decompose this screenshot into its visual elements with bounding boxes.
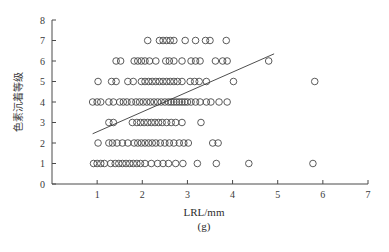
x-tick-label: 2 xyxy=(140,189,145,200)
y-tick-label: 1 xyxy=(40,158,45,169)
data-point-marker xyxy=(224,58,231,65)
data-point-marker xyxy=(198,119,205,126)
data-point-marker xyxy=(246,160,253,167)
data-point-marker xyxy=(185,140,192,147)
data-point-marker xyxy=(110,99,117,106)
x-axis-title: LRL/mm xyxy=(184,206,225,218)
data-point-marker xyxy=(172,119,179,126)
x-tick-label: 4 xyxy=(230,189,235,200)
y-tick-label: 0 xyxy=(40,179,45,190)
data-point-marker xyxy=(144,37,151,44)
y-tick-label: 7 xyxy=(40,35,45,46)
data-point-marker xyxy=(179,119,186,126)
data-point-marker xyxy=(182,37,189,44)
y-tick-label: 4 xyxy=(40,97,45,108)
figure-subcaption: (g) xyxy=(198,220,211,233)
data-point-marker xyxy=(179,78,186,85)
data-point-marker xyxy=(224,99,231,106)
y-tick-label: 8 xyxy=(40,15,45,26)
data-point-marker xyxy=(172,160,179,167)
data-point-marker xyxy=(213,160,220,167)
data-point-marker xyxy=(197,58,204,65)
data-point-marker xyxy=(208,99,215,106)
data-point-marker xyxy=(196,78,203,85)
data-point-marker xyxy=(179,58,186,65)
data-point-marker xyxy=(95,140,102,147)
y-tick-label: 6 xyxy=(40,56,45,67)
data-point-marker xyxy=(146,58,153,65)
data-point-marker xyxy=(95,78,102,85)
data-point-marker xyxy=(142,160,149,167)
data-point-marker xyxy=(216,99,223,106)
data-point-marker xyxy=(230,78,237,85)
data-point-marker xyxy=(113,78,120,85)
data-point-marker xyxy=(148,160,155,167)
x-tick-label: 7 xyxy=(366,189,371,200)
data-point-marker xyxy=(310,160,317,167)
x-tick-label: 5 xyxy=(275,189,280,200)
scatter-plot: 1234567012345678 LRL/mm(g)色素沉着等级 xyxy=(0,0,389,252)
data-point-marker xyxy=(212,58,219,65)
data-point-marker xyxy=(171,58,178,65)
data-point-marker xyxy=(180,160,187,167)
y-tick-label: 2 xyxy=(40,138,45,149)
data-point-marker xyxy=(192,37,199,44)
x-tick-label: 1 xyxy=(95,189,100,200)
data-point-marker xyxy=(194,160,201,167)
trend-line xyxy=(93,54,274,134)
x-tick-label: 3 xyxy=(185,189,190,200)
data-points xyxy=(89,37,318,167)
x-tick-label: 6 xyxy=(320,189,325,200)
axis-tick-labels: 1234567012345678 xyxy=(40,15,371,201)
y-tick-label: 3 xyxy=(40,117,45,128)
data-point-marker xyxy=(265,58,272,65)
regression-line xyxy=(93,54,274,134)
chart-figure: 1234567012345678 LRL/mm(g)色素沉着等级 xyxy=(0,0,389,252)
y-axis-title: 色素沉着等级 xyxy=(12,72,24,132)
data-point-marker xyxy=(117,58,124,65)
data-point-marker xyxy=(153,58,160,65)
data-point-marker xyxy=(223,37,230,44)
data-point-marker xyxy=(207,37,214,44)
data-point-marker xyxy=(311,78,318,85)
y-tick-label: 5 xyxy=(40,76,45,87)
data-point-marker xyxy=(197,99,204,106)
